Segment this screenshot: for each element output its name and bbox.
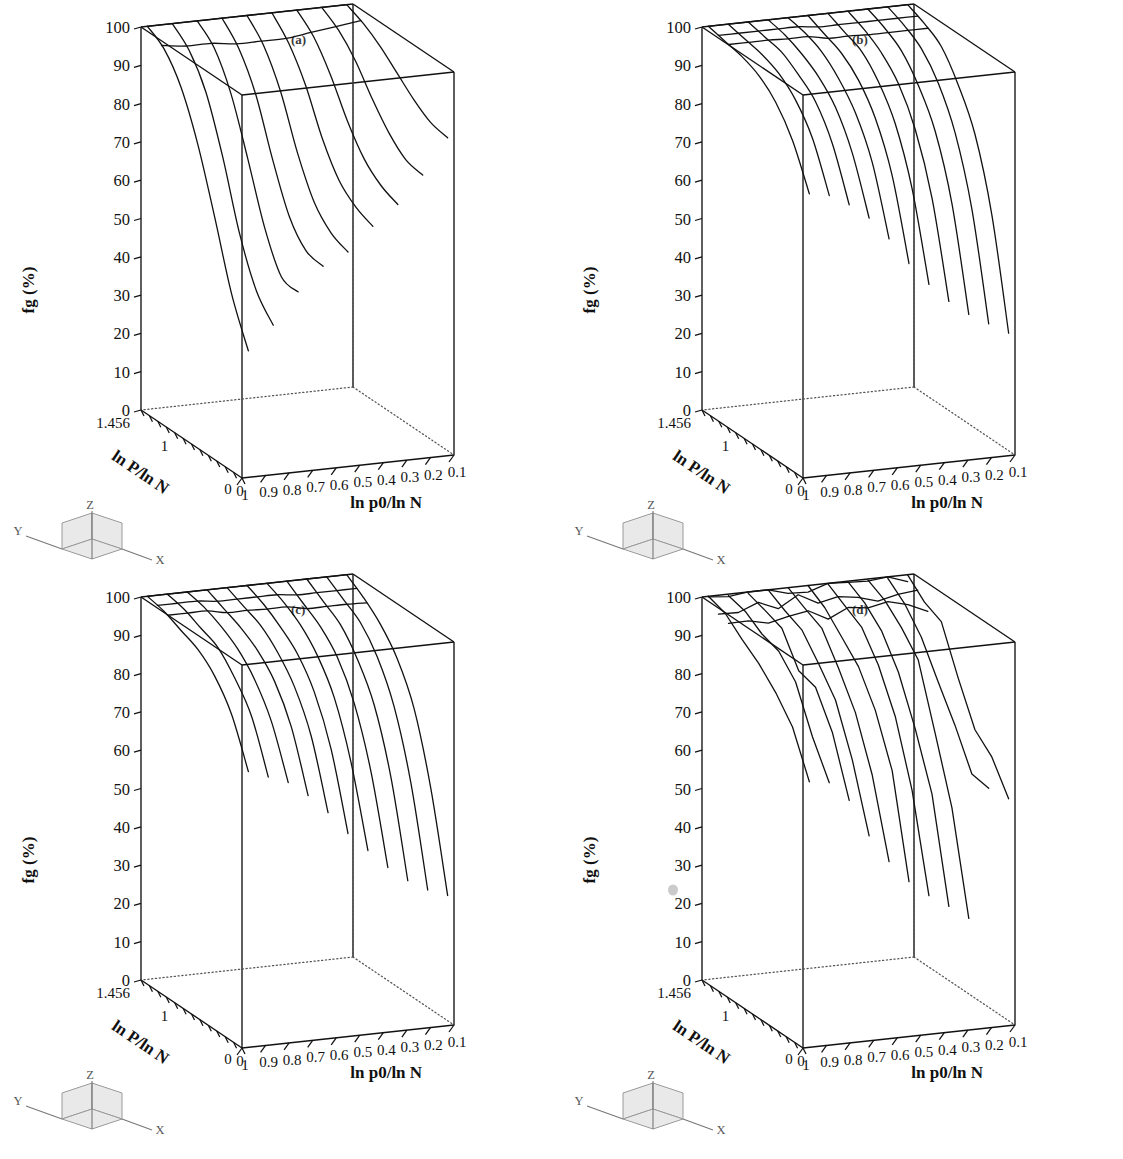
x-tick-label: 0.3 bbox=[962, 1039, 981, 1055]
y-tick-label: 0 bbox=[236, 483, 244, 499]
y-tick-label: 0 bbox=[236, 1053, 244, 1069]
z-tick-label: 30 bbox=[114, 286, 131, 305]
x-tick-label: 0.8 bbox=[844, 482, 863, 498]
x-tick-label: 0.9 bbox=[259, 1054, 278, 1070]
z-tick-label: 70 bbox=[675, 703, 692, 722]
orientation-label-x: X bbox=[155, 553, 164, 567]
x-tick-label: 0.2 bbox=[424, 1037, 443, 1053]
surface-ridge-curve bbox=[728, 596, 829, 783]
orientation-axis-x bbox=[122, 1119, 152, 1130]
z-tick-label: 60 bbox=[675, 741, 692, 760]
plot-canvas: 1009080706050403020100fg (%)010.90.80.70… bbox=[0, 0, 561, 580]
x-tick-label: 0.7 bbox=[867, 1049, 886, 1065]
z-tick-label: 80 bbox=[114, 665, 131, 684]
x-tick-label: 0.4 bbox=[938, 1042, 957, 1058]
z-axis-title: fg (%) bbox=[580, 837, 599, 884]
x-axis: 010.90.80.70.60.50.40.30.20.1ln p0/ln N bbox=[224, 1025, 466, 1082]
x-tick-label: 0.1 bbox=[448, 1034, 467, 1050]
z-tick-label: 50 bbox=[675, 210, 692, 229]
z-tick-label: 40 bbox=[114, 818, 131, 837]
orientation-axis-x bbox=[683, 1119, 713, 1130]
z-tick-label: 40 bbox=[675, 248, 692, 267]
orientation-label-z: Z bbox=[647, 1068, 655, 1082]
y-tick-label: 1.456 bbox=[96, 415, 130, 431]
z-tick-label: 20 bbox=[675, 894, 692, 913]
x-tick-label: 0.6 bbox=[891, 1047, 910, 1063]
z-tick-label: 80 bbox=[675, 95, 692, 114]
z-tick-label: 90 bbox=[114, 626, 131, 645]
z-tick-label: 100 bbox=[105, 18, 130, 37]
x-tick-label: 0.7 bbox=[306, 479, 325, 495]
orientation-key: ZYX bbox=[574, 1068, 725, 1137]
plot-panel-c: (c)1009080706050403020100fg (%)010.90.80… bbox=[0, 570, 561, 1150]
orientation-label-y: Y bbox=[574, 1094, 583, 1108]
x-axis-title: ln p0/ln N bbox=[350, 1063, 423, 1082]
x-tick-label: 0.6 bbox=[330, 477, 349, 493]
z-axis: 1009080706050403020100fg (%) bbox=[19, 18, 141, 420]
orientation-label-z: Z bbox=[86, 498, 94, 512]
surface-mesh bbox=[708, 5, 1008, 333]
z-tick-label: 100 bbox=[666, 18, 691, 37]
z-tick-label: 40 bbox=[114, 248, 131, 267]
surface-ridge-curve bbox=[888, 578, 989, 788]
surface-mesh bbox=[708, 575, 1008, 919]
surface-ridge-curve bbox=[848, 11, 949, 301]
z-axis: 1009080706050403020100fg (%) bbox=[580, 588, 702, 990]
surface-ridge-curve bbox=[307, 579, 408, 881]
z-tick-label: 20 bbox=[675, 324, 692, 343]
axis-box bbox=[702, 574, 1015, 1048]
plot-panel-d: (d)1009080706050403020100fg (%)010.90.80… bbox=[561, 570, 1122, 1150]
orientation-axis-y bbox=[587, 1106, 623, 1119]
y-tick-label: 1 bbox=[161, 438, 169, 454]
x-axis: 010.90.80.70.60.50.40.30.20.1ln p0/ln N bbox=[224, 455, 466, 512]
z-tick-label: 80 bbox=[675, 665, 692, 684]
surface-ridge-curve bbox=[708, 596, 809, 781]
x-tick-label: 0.4 bbox=[938, 472, 957, 488]
x-tick-label: 0.2 bbox=[985, 467, 1004, 483]
y-tick-label: 0 bbox=[797, 1053, 805, 1069]
orientation-label-x: X bbox=[716, 553, 725, 567]
surface-cross-curve bbox=[168, 603, 367, 615]
surface-ridge-curve bbox=[768, 590, 869, 836]
orientation-label-y: Y bbox=[13, 1094, 22, 1108]
surface-mesh bbox=[147, 5, 447, 351]
orientation-key: ZYX bbox=[13, 498, 164, 567]
y-axis: 1.45610ln P/ln N bbox=[96, 410, 245, 499]
orientation-axis-y bbox=[587, 536, 623, 549]
z-tick-label: 90 bbox=[675, 626, 692, 645]
x-tick-label: 0.4 bbox=[377, 472, 396, 488]
z-tick-label: 30 bbox=[675, 286, 692, 305]
orientation-label-x: X bbox=[155, 1123, 164, 1137]
x-origin-label: 0 bbox=[224, 1051, 232, 1067]
y-axis: 1.45610ln P/ln N bbox=[657, 980, 806, 1069]
x-tick-label: 0.5 bbox=[914, 474, 933, 490]
y-tick-label: 1.456 bbox=[96, 985, 130, 1001]
z-tick-label: 60 bbox=[114, 171, 131, 190]
orientation-axis-x bbox=[683, 549, 713, 560]
x-origin-label: 0 bbox=[224, 481, 232, 497]
z-tick-label: 40 bbox=[675, 818, 692, 837]
orientation-axis-y bbox=[26, 1106, 62, 1119]
surface-ridge-curve bbox=[287, 581, 388, 867]
surface-cross-curve bbox=[708, 5, 907, 27]
z-tick-label: 50 bbox=[675, 780, 692, 799]
x-axis: 010.90.80.70.60.50.40.30.20.1ln p0/ln N bbox=[785, 455, 1027, 512]
x-tick-label: 0.2 bbox=[424, 467, 443, 483]
surface-ridge-curve bbox=[147, 26, 248, 351]
x-tick-label: 0.9 bbox=[820, 484, 839, 500]
y-tick-label: 0 bbox=[797, 483, 805, 499]
x-tick-label: 0.3 bbox=[401, 1039, 420, 1055]
plot-canvas: 1009080706050403020100fg (%)010.90.80.70… bbox=[0, 570, 561, 1150]
surface-cross-curve bbox=[708, 577, 907, 597]
x-origin-label: 0 bbox=[785, 1051, 793, 1067]
z-tick-label: 60 bbox=[114, 741, 131, 760]
y-tick-label: 1 bbox=[722, 1008, 730, 1024]
x-tick-label: 0.3 bbox=[401, 469, 420, 485]
x-tick-label: 0.4 bbox=[377, 1042, 396, 1058]
x-tick-label: 0.5 bbox=[353, 474, 372, 490]
x-axis: 010.90.80.70.60.50.40.30.20.1ln p0/ln N bbox=[785, 1025, 1027, 1082]
z-tick-label: 50 bbox=[114, 210, 131, 229]
z-tick-label: 10 bbox=[675, 933, 692, 952]
z-tick-label: 60 bbox=[675, 171, 692, 190]
z-tick-label: 30 bbox=[114, 856, 131, 875]
